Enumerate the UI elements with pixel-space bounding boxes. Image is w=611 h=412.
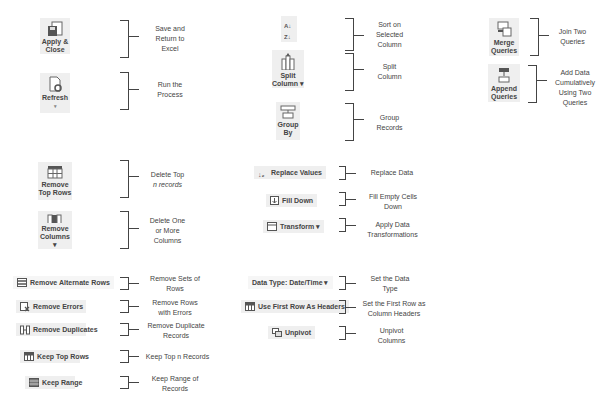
sort-icon: A↓Z↓: [284, 19, 294, 40]
bracket-tick: [129, 283, 139, 284]
bracket-tick: [129, 382, 139, 383]
keep-top-rows-description: Keep Top n Records: [140, 352, 215, 362]
unpivot-description: UnpivotColumns: [364, 326, 419, 346]
bracket: [120, 72, 129, 110]
bracket: [120, 376, 129, 389]
bracket: [530, 18, 539, 56]
group-by-description: GroupRecords: [362, 113, 417, 133]
replace-values-icon: ↓₂: [258, 168, 268, 178]
group-by-label-2: By: [284, 129, 293, 137]
bracket-tick: [346, 283, 356, 284]
bracket-tick: [346, 199, 356, 200]
apply-close-label-2: Close: [45, 46, 64, 54]
remove-columns-label-2: Columns ▾: [38, 233, 72, 249]
bracket: [345, 18, 354, 51]
remove-columns-description: Delete Oneor MoreColumns: [140, 216, 195, 246]
remove-errors-description: Remove Rowswith Errors: [140, 298, 210, 318]
replace-values-button[interactable]: ↓₂ Replace Values: [254, 166, 326, 179]
transform-icon: [267, 222, 277, 231]
merge-queries-button[interactable]: Merge Queries: [489, 18, 519, 56]
bracket-tick: [129, 36, 139, 37]
keep-range-description: Keep Range ofRecords: [140, 374, 210, 394]
bracket-tick: [129, 89, 139, 90]
bracket-tick: [129, 176, 139, 177]
data-type-label: Data Type: Date/Time ▾: [252, 279, 329, 287]
bracket: [120, 160, 129, 198]
merge-queries-label-2: Queries: [491, 47, 517, 55]
split-column-button[interactable]: Split Column ▾: [272, 50, 304, 88]
sort-buttons[interactable]: A↓Z↓: [281, 16, 297, 42]
split-column-label-2: Column ▾: [272, 80, 304, 88]
bracket: [339, 300, 346, 314]
bracket-tick: [129, 356, 139, 357]
remove-columns-label-1: Remove: [41, 225, 68, 233]
refresh-label: Refresh: [42, 94, 68, 102]
split-column-icon: [279, 53, 297, 70]
group-by-icon: [280, 105, 296, 119]
bracket: [345, 103, 354, 141]
refresh-icon: [47, 76, 63, 92]
keep-top-rows-icon: [24, 352, 34, 361]
remove-errors-button[interactable]: Remove Errors: [16, 300, 86, 313]
remove-alternate-rows-label: Remove Alternate Rows: [30, 279, 110, 286]
use-first-row-headers-label: Use First Row As Headers: [258, 303, 345, 310]
remove-alternate-rows-description: Remove Sets ofRows: [140, 274, 210, 294]
merge-queries-description: Join TwoQueries: [545, 27, 600, 47]
remove-duplicates-button[interactable]: Remove Duplicates: [16, 323, 86, 336]
fill-down-description: Fill Empty CellsDown: [360, 192, 426, 212]
unpivot-button[interactable]: Unpivot: [268, 326, 315, 339]
apply-close-button[interactable]: Apply & Close: [40, 18, 70, 54]
svg-text:A↓: A↓: [284, 23, 291, 29]
remove-columns-icon: [47, 214, 63, 223]
refresh-description: Run theProcess: [140, 80, 200, 100]
remove-top-rows-button[interactable]: Remove Top Rows: [38, 162, 72, 200]
group-by-label-1: Group: [278, 121, 299, 129]
transform-button[interactable]: Transform ▾: [263, 220, 324, 233]
fill-down-button[interactable]: Fill Down: [266, 194, 317, 207]
keep-range-label: Keep Range: [42, 379, 82, 386]
bracket-tick: [346, 173, 356, 174]
bracket-tick: [346, 333, 356, 334]
bracket: [339, 218, 346, 232]
svg-text:Z↓: Z↓: [284, 34, 291, 40]
bracket: [339, 326, 346, 340]
remove-alternate-rows-icon: [17, 278, 27, 287]
data-type-dropdown[interactable]: Data Type: Date/Time ▾: [248, 276, 333, 289]
remove-alternate-rows-button[interactable]: Remove Alternate Rows: [13, 276, 114, 289]
append-queries-button[interactable]: Append Queries: [488, 64, 520, 102]
remove-top-rows-icon: [47, 165, 63, 179]
bracket-tick: [129, 228, 139, 229]
bracket: [120, 350, 129, 363]
use-first-row-headers-button[interactable]: Use First Row As Headers: [241, 300, 349, 313]
unpivot-label: Unpivot: [285, 329, 311, 336]
split-column-description: SplitColumn: [362, 62, 417, 82]
apply-close-description: Save andReturn toExcel: [140, 24, 200, 54]
split-column-label-1: Split: [280, 72, 295, 80]
fill-down-label: Fill Down: [282, 197, 313, 204]
refresh-dropdown: ▾: [54, 102, 57, 110]
keep-range-icon: [29, 378, 39, 387]
keep-top-rows-label: Keep Top Rows: [37, 353, 89, 360]
remove-errors-label: Remove Errors: [33, 303, 83, 310]
bracket: [120, 323, 129, 336]
merge-queries-label-1: Merge: [494, 39, 515, 47]
bracket: [120, 300, 129, 313]
bracket: [345, 53, 354, 91]
keep-range-button[interactable]: Keep Range: [25, 376, 75, 389]
remove-columns-button[interactable]: Remove Columns ▾: [38, 211, 72, 249]
replace-values-label: Replace Values: [271, 169, 322, 176]
data-type-description: Set the DataType: [360, 274, 420, 294]
remove-duplicates-label: Remove Duplicates: [33, 326, 98, 333]
group-by-button[interactable]: Group By: [276, 102, 300, 140]
keep-top-rows-button[interactable]: Keep Top Rows: [20, 350, 80, 363]
bracket: [120, 277, 129, 290]
svg-text:↓₂: ↓₂: [258, 171, 265, 178]
use-first-row-headers-description: Set the First Row asColumn Headers: [352, 299, 436, 319]
remove-duplicates-icon: [20, 325, 30, 335]
use-first-row-headers-icon: [245, 302, 255, 311]
bracket: [339, 166, 346, 180]
bracket: [339, 192, 346, 206]
replace-values-description: Replace Data: [362, 168, 422, 178]
bracket-tick: [129, 306, 139, 307]
refresh-button[interactable]: Refresh ▾: [40, 73, 70, 113]
